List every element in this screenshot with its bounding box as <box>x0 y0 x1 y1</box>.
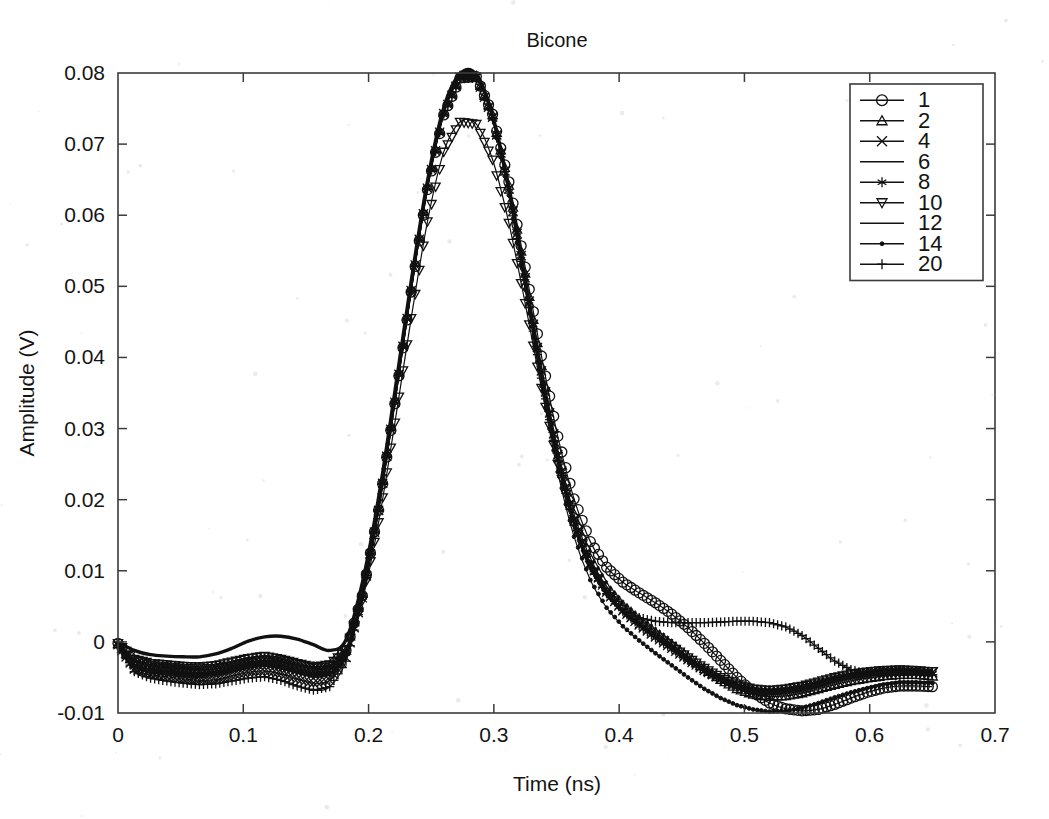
legend-label: 20 <box>918 251 942 276</box>
y-tick-label: 0.02 <box>64 488 105 511</box>
figure-container: Bicone 00.10.20.30.40.50.60.7-0.0100.010… <box>0 0 1049 819</box>
y-tick-label: 0.03 <box>64 417 105 440</box>
x-tick-label: 0.4 <box>605 723 635 746</box>
y-tick-label: 0.05 <box>64 274 105 297</box>
y-tick-label: 0.08 <box>64 61 105 84</box>
legend-marker <box>880 242 884 246</box>
x-tick-label: 0.5 <box>730 723 759 746</box>
y-axis-title: Amplitude (V) <box>15 329 38 456</box>
x-tick-label: 0.6 <box>855 723 884 746</box>
x-tick-label: 0.7 <box>980 723 1009 746</box>
y-tick-label: 0.01 <box>64 559 105 582</box>
x-tick-label: 0 <box>112 723 124 746</box>
y-tick-label: 0.07 <box>64 132 105 155</box>
x-tick-label: 0.1 <box>229 723 258 746</box>
y-tick-label: 0.04 <box>64 345 105 368</box>
y-tick-label: 0 <box>93 630 105 653</box>
bicone-chart: Bicone 00.10.20.30.40.50.60.7-0.0100.010… <box>0 0 1049 819</box>
y-tick-label: -0.01 <box>57 701 105 724</box>
y-tick-label: 0.06 <box>64 203 105 226</box>
chart-title: Bicone <box>526 29 587 51</box>
x-tick-label: 0.3 <box>479 723 508 746</box>
x-axis-title: Time (ns) <box>513 772 601 795</box>
x-tick-label: 0.2 <box>354 723 383 746</box>
legend: 1246810121420 <box>850 84 983 281</box>
